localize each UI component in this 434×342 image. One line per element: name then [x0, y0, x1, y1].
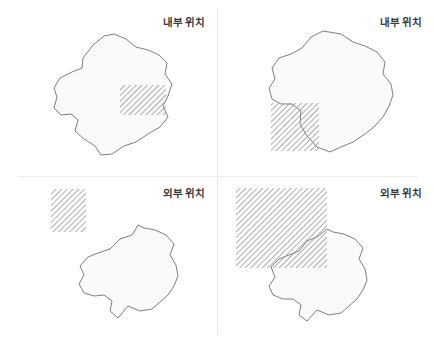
panel-top-right: 내부 위치 [217, 0, 434, 171]
panel-label: 외부 위치 [163, 185, 205, 200]
hatched-rectangle [51, 189, 86, 232]
figure-container: 내부 위치 내부 위치 외부 위치 [0, 0, 434, 342]
hatched-rectangle [271, 103, 319, 151]
panel-label: 내부 위치 [380, 14, 422, 29]
panel-top-left: 내부 위치 [0, 0, 217, 171]
panel-label: 외부 위치 [380, 185, 422, 200]
panel-bottom-left: 외부 위치 [0, 171, 217, 342]
panel-bottom-right: 외부 위치 [217, 171, 434, 342]
panel-label: 내부 위치 [163, 14, 205, 29]
irregular-region [79, 225, 178, 318]
hatched-rectangle [236, 188, 327, 268]
hatched-rectangle [120, 85, 166, 115]
